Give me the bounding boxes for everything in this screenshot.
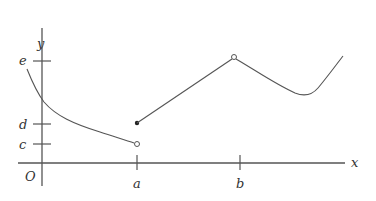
line-piece-2 — [137, 59, 232, 123]
curve-piece-3 — [236, 56, 343, 95]
y-axis-label: y — [36, 36, 45, 51]
origin-label: O — [25, 169, 36, 184]
label-e: e — [19, 53, 27, 68]
function-graph: y x O e d c a b — [0, 0, 376, 201]
open-circle-a-c — [135, 142, 140, 147]
open-circle-peak — [232, 55, 237, 60]
curve-piece-1 — [27, 69, 134, 143]
label-a: a — [133, 176, 141, 191]
x-axis-label: x — [351, 155, 359, 170]
label-c: c — [19, 137, 27, 152]
label-b: b — [236, 176, 244, 191]
label-d: d — [19, 117, 27, 132]
